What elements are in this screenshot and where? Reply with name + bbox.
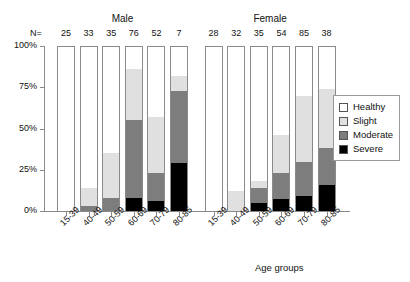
- y-axis-tick-label: 100%: [0, 40, 37, 50]
- y-axis-line: [44, 46, 45, 212]
- y-axis-tick-label: 50%: [0, 123, 37, 133]
- segment-healthy: [126, 46, 142, 69]
- bar-male-70-79: [147, 46, 165, 212]
- segment-healthy: [319, 46, 335, 89]
- legend: HealthySlightModerateSevere: [333, 95, 400, 161]
- segment-healthy: [58, 46, 74, 211]
- bar-male-50-59: [102, 46, 120, 212]
- segment-healthy: [273, 46, 289, 135]
- segment-slight: [103, 153, 119, 198]
- segment-slight: [171, 76, 187, 91]
- segment-slight: [296, 96, 312, 162]
- legend-swatch-severe: [339, 145, 348, 154]
- n-value: 33: [77, 28, 101, 38]
- bar-female-15-39: [205, 46, 223, 212]
- segment-moderate: [296, 162, 312, 197]
- y-axis-tick: [40, 170, 44, 171]
- segment-healthy: [228, 46, 244, 191]
- segment-severe: [171, 163, 187, 211]
- n-value: 38: [315, 28, 339, 38]
- bar-female-50-59: [250, 46, 268, 212]
- bar-female-70-79: [295, 46, 313, 212]
- segment-moderate: [171, 91, 187, 164]
- n-value: 32: [224, 28, 248, 38]
- legend-swatch-healthy: [339, 103, 348, 112]
- legend-label: Healthy: [353, 102, 385, 112]
- legend-swatch-moderate: [339, 131, 348, 140]
- segment-moderate: [148, 173, 164, 201]
- y-axis-tick-label: 0%: [0, 205, 37, 215]
- bar-male-80-85: [170, 46, 188, 212]
- x-axis-title: Age groups: [255, 262, 304, 273]
- segment-moderate: [126, 120, 142, 198]
- n-value: 35: [99, 28, 123, 38]
- bar-female-40-49: [227, 46, 245, 212]
- stacked-bar-chart: 0%25%50%75%100%MaleN=2515-393340-493550-…: [0, 0, 410, 282]
- segment-slight: [273, 135, 289, 173]
- segment-slight: [148, 117, 164, 173]
- y-axis-tick-label: 75%: [0, 81, 37, 91]
- n-value: 54: [269, 28, 293, 38]
- y-axis-tick-label: 25%: [0, 164, 37, 174]
- n-value: 28: [202, 28, 226, 38]
- segment-slight: [81, 188, 97, 206]
- bar-male-60-69: [125, 46, 143, 212]
- segment-healthy: [251, 46, 267, 181]
- segment-healthy: [206, 46, 222, 211]
- group-title-female: Female: [205, 13, 336, 24]
- group-title-male: Male: [57, 13, 188, 24]
- n-value: 25: [54, 28, 78, 38]
- legend-label: Slight: [353, 116, 377, 126]
- n-value: 85: [292, 28, 316, 38]
- bar-male-15-39: [57, 46, 75, 212]
- n-value: 35: [247, 28, 271, 38]
- legend-item: Moderate: [339, 128, 393, 142]
- legend-item: Slight: [339, 114, 393, 128]
- segment-healthy: [296, 46, 312, 96]
- segment-healthy: [171, 46, 187, 76]
- n-value: 52: [144, 28, 168, 38]
- segment-healthy: [148, 46, 164, 117]
- legend-swatch-slight: [339, 117, 348, 126]
- legend-label: Severe: [353, 144, 383, 154]
- legend-label: Moderate: [353, 130, 393, 140]
- bar-female-60-69: [272, 46, 290, 212]
- segment-moderate: [251, 188, 267, 203]
- segment-moderate: [273, 173, 289, 199]
- n-value: 76: [122, 28, 146, 38]
- y-axis-tick: [40, 129, 44, 130]
- segment-slight: [126, 69, 142, 120]
- legend-item: Severe: [339, 142, 393, 156]
- segment-healthy: [81, 46, 97, 188]
- y-axis-tick: [40, 87, 44, 88]
- segment-healthy: [103, 46, 119, 153]
- y-axis-tick: [40, 46, 44, 47]
- n-prefix-label: N=: [30, 28, 42, 38]
- segment-slight: [251, 181, 267, 188]
- n-value: 7: [167, 28, 191, 38]
- legend-item: Healthy: [339, 100, 393, 114]
- bar-male-40-49: [80, 46, 98, 212]
